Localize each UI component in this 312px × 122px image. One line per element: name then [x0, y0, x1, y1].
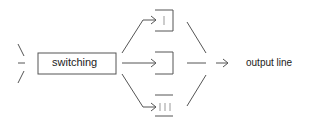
switching-label: switching	[52, 57, 97, 68]
arrow-icon-bottom	[143, 103, 156, 111]
channel-1-box	[155, 10, 173, 31]
input-line-top	[18, 44, 24, 56]
branch-line-top	[122, 20, 143, 53]
output-arrow-icon	[216, 59, 228, 67]
merge-line-top	[187, 22, 206, 53]
merge-line-bottom	[187, 75, 206, 106]
arrow-icon-top	[143, 16, 156, 24]
output-line-label: output line	[246, 58, 292, 68]
branch-line-bottom	[122, 74, 143, 107]
channel-3-box	[155, 95, 173, 116]
channel-2-box	[155, 52, 173, 74]
input-line-bottom	[18, 71, 24, 83]
